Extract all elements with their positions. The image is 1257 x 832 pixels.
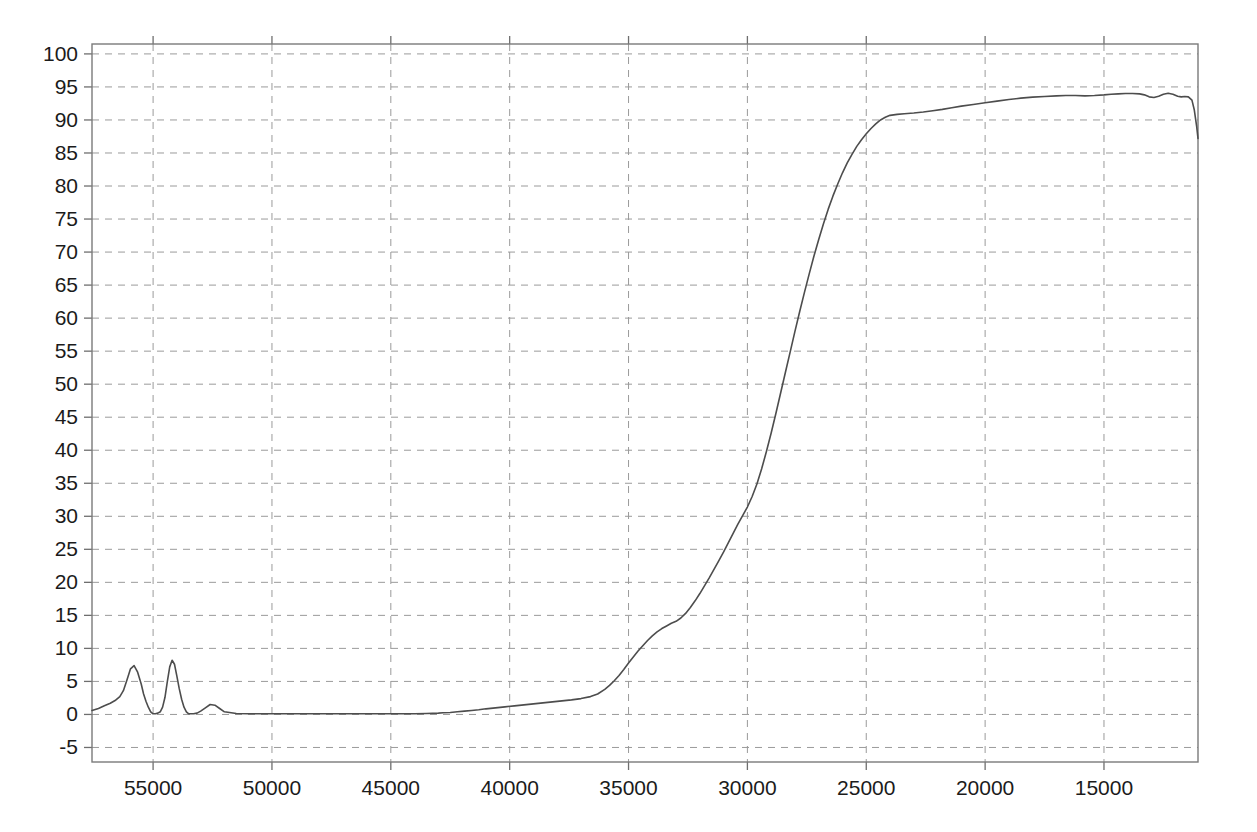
y-tick-label: 100 [43,42,78,65]
y-tick-label: 45 [55,405,78,428]
y-tick-label: 80 [55,174,78,197]
y-tick-label: 50 [55,372,78,395]
y-tick-label: 65 [55,273,78,296]
x-tick-label: 15000 [1075,776,1133,799]
y-tick-label: 85 [55,141,78,164]
y-tickmarks [84,54,92,748]
y-tick-label: 5 [66,669,78,692]
y-tick-label: 15 [55,603,78,626]
y-tick-label: -5 [59,735,78,758]
plot-frame-border [92,44,1198,762]
y-tick-label: 40 [55,438,78,461]
y-tick-label: 70 [55,240,78,263]
spectrum-plot-area: 5500050000450004000035000300002500020000… [0,0,1257,832]
y-tick-label: 60 [55,306,78,329]
y-tick-label: 0 [66,702,78,725]
x-axis-tick-labels: 5500050000450004000035000300002500020000… [124,776,1133,799]
x-gridlines [153,44,1104,762]
x-tick-label: 25000 [837,776,895,799]
spectrum-chart: 5500050000450004000035000300002500020000… [0,0,1257,832]
x-tick-label: 55000 [124,776,182,799]
y-tick-label: 30 [55,504,78,527]
x-tick-label: 30000 [718,776,776,799]
y-tick-label: 35 [55,471,78,494]
x-tick-label: 40000 [480,776,538,799]
y-tick-label: 90 [55,108,78,131]
y-tick-label: 20 [55,570,78,593]
y-tick-label: 55 [55,339,78,362]
x-tick-label: 45000 [362,776,420,799]
x-tick-label: 35000 [599,776,657,799]
y-axis-tick-labels: -505101520253035404550556065707580859095… [43,42,78,759]
y-tick-label: 10 [55,636,78,659]
y-tick-label: 95 [55,75,78,98]
x-tick-label: 20000 [956,776,1014,799]
x-tick-label: 50000 [243,776,301,799]
y-tick-label: 75 [55,207,78,230]
y-tick-label: 25 [55,537,78,560]
